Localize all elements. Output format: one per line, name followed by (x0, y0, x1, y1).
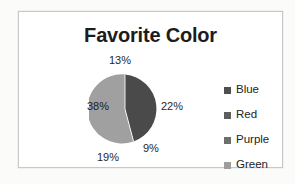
legend-label-purple: Purple (236, 134, 269, 146)
legend-label-green: Green (236, 159, 268, 171)
chart-frame: Favorite Color 13% 22% 9% 19% 38% Blue (18, 11, 283, 168)
pie-data-label-19: 19% (97, 151, 119, 163)
pie-plot-area: 13% 22% 9% 19% 38% (69, 56, 189, 164)
legend-item-green[interactable]: Green (224, 153, 295, 177)
legend-item-purple[interactable]: Purple (224, 128, 295, 152)
legend-item-red[interactable]: Red (224, 103, 295, 127)
legend-item-blue[interactable]: Blue (224, 78, 295, 102)
legend-label-blue: Blue (236, 84, 259, 96)
legend-swatch-icon-green (224, 162, 231, 169)
pie-data-label-22: 22% (161, 100, 183, 112)
pie-data-label-9: 9% (143, 142, 159, 154)
legend-swatch-icon-purple (224, 137, 231, 144)
pie-data-label-13: 13% (109, 54, 131, 66)
pie-data-label-38: 38% (87, 100, 109, 112)
legend-label-red: Red (236, 109, 257, 121)
chart-legend: Blue Red Purple Green (224, 78, 295, 178)
legend-swatch-icon-red (224, 112, 231, 119)
chart-title: Favorite Color (19, 24, 282, 47)
legend-swatch-icon-blue (224, 87, 231, 94)
